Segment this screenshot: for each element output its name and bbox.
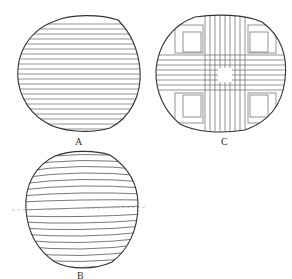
panel-b-curved-lines xyxy=(20,154,145,267)
panel-c-label: C xyxy=(221,137,228,147)
panel-b-label: B xyxy=(77,271,84,279)
panel-a-label: A xyxy=(75,137,82,147)
panel-a-horizontal-lines xyxy=(10,24,150,129)
panel-c-center-square xyxy=(218,68,232,82)
figure-canvas xyxy=(0,0,292,279)
